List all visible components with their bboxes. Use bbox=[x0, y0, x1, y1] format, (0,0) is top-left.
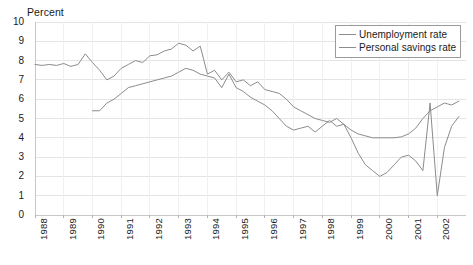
y-tick-label: 6 bbox=[8, 94, 24, 104]
legend-item-label: Unemployment rate bbox=[359, 29, 447, 40]
legend-line-swatch bbox=[339, 34, 356, 35]
x-tick-label: 1995 bbox=[240, 218, 250, 240]
x-tick-label: 1993 bbox=[183, 218, 193, 240]
legend-item-label: Personal savings rate bbox=[359, 42, 456, 53]
y-tick-label: 7 bbox=[8, 75, 24, 85]
x-tick-label: 2000 bbox=[384, 218, 394, 240]
y-tick-label: 10 bbox=[8, 17, 24, 27]
y-tick-label: 1 bbox=[8, 191, 24, 201]
x-tick-label: 1992 bbox=[154, 218, 164, 240]
legend-line-swatch bbox=[339, 47, 356, 48]
x-tick-label: 1996 bbox=[269, 218, 279, 240]
legend-item: Personal savings rate bbox=[339, 41, 456, 54]
data-series bbox=[35, 43, 459, 195]
x-tick-label: 1994 bbox=[211, 218, 221, 240]
chart-legend: Unemployment rate Personal savings rate bbox=[335, 25, 461, 58]
y-tick-label: 9 bbox=[8, 36, 24, 46]
x-tick-label: 1988 bbox=[39, 218, 49, 240]
x-tick-label: 1991 bbox=[125, 218, 135, 240]
x-tick-label: 2001 bbox=[413, 218, 423, 240]
legend-item: Unemployment rate bbox=[339, 28, 456, 41]
y-tick-label: 3 bbox=[8, 152, 24, 162]
x-tick-label: 1999 bbox=[355, 218, 365, 240]
x-tick-label: 1990 bbox=[96, 218, 106, 240]
x-tick-label: 2002 bbox=[441, 218, 451, 240]
y-tick-label: 4 bbox=[8, 133, 24, 143]
line-chart: Percent 012345678910 1988198919901991199… bbox=[0, 0, 473, 265]
y-tick-label: 2 bbox=[8, 171, 24, 181]
x-tick-label: 1997 bbox=[298, 218, 308, 240]
y-tick-label: 0 bbox=[8, 210, 24, 220]
x-tick-label: 1998 bbox=[326, 218, 336, 240]
y-tick-label: 8 bbox=[8, 56, 24, 66]
y-tick-label: 5 bbox=[8, 114, 24, 124]
x-tick-label: 1989 bbox=[68, 218, 78, 240]
